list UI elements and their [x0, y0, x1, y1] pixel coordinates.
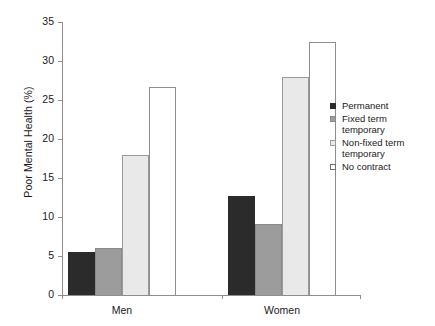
legend-item-label: Fixed term temporary — [342, 113, 404, 136]
legend-item-label: Permanent — [342, 100, 404, 112]
y-axis-tick-label: 25 — [22, 94, 54, 105]
y-axis-tick-label: 35 — [22, 16, 54, 27]
x-axis-line — [62, 295, 360, 296]
x-axis-category-label: Women — [222, 304, 342, 316]
bar — [68, 252, 95, 295]
legend-item-label: No contract — [342, 161, 404, 173]
legend-swatch-icon — [330, 103, 336, 109]
y-axis-tick-label: 10 — [22, 211, 54, 222]
y-axis-tick-mark — [58, 217, 62, 218]
plot-area: 05101520253035 MenWomen — [62, 22, 360, 295]
y-axis-tick-label: 30 — [22, 55, 54, 66]
bar — [282, 77, 309, 295]
legend-swatch-icon — [330, 116, 336, 122]
y-axis-tick-label: 15 — [22, 172, 54, 183]
x-axis-tick-mark — [360, 295, 361, 299]
legend-item-label: Non-fixed term temporary — [342, 137, 404, 160]
y-axis-tick-label: 0 — [22, 289, 54, 300]
bar-chart: Poor Mental Health (%) 05101520253035 Me… — [0, 0, 435, 326]
y-axis-tick-mark — [58, 100, 62, 101]
bar — [228, 196, 255, 295]
legend-item: No contract — [330, 161, 404, 173]
x-axis-category-label: Men — [62, 304, 182, 316]
chart-legend: PermanentFixed term temporaryNon-fixed t… — [330, 100, 404, 174]
legend-item: Permanent — [330, 100, 404, 112]
bar — [255, 224, 282, 295]
bar — [122, 155, 149, 295]
y-axis-tick-mark — [58, 139, 62, 140]
y-axis-tick-mark — [58, 256, 62, 257]
y-axis-tick-label: 5 — [22, 250, 54, 261]
legend-swatch-icon — [330, 164, 336, 170]
y-axis-tick-mark — [58, 61, 62, 62]
y-axis-line — [62, 22, 63, 295]
y-axis-tick-label: 20 — [22, 133, 54, 144]
legend-item: Non-fixed term temporary — [330, 137, 404, 160]
x-axis-tick-mark — [222, 295, 223, 299]
bar — [95, 248, 122, 295]
legend-swatch-icon — [330, 140, 336, 146]
y-axis-tick-mark — [58, 178, 62, 179]
bar — [149, 87, 176, 295]
legend-item: Fixed term temporary — [330, 113, 404, 136]
y-axis-tick-mark — [58, 22, 62, 23]
x-axis-tick-mark — [62, 295, 63, 299]
